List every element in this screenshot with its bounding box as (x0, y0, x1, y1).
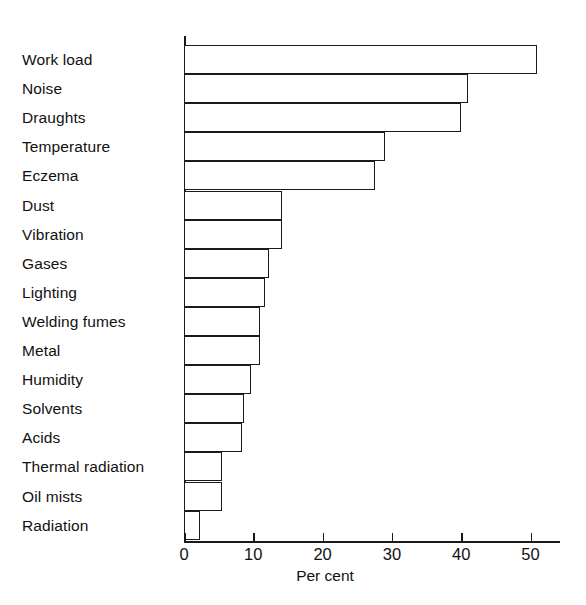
category-label: Acids (22, 430, 178, 446)
x-axis-tick-label: 50 (509, 546, 553, 563)
category-label: Gases (22, 256, 178, 272)
x-axis-tick (461, 533, 463, 541)
bar (184, 103, 461, 132)
category-label: Noise (22, 81, 178, 97)
x-axis-tick (184, 533, 186, 541)
bar (184, 423, 242, 452)
bar (184, 74, 468, 103)
bar (184, 307, 260, 336)
x-axis-line (184, 541, 560, 543)
category-label: Thermal radiation (22, 459, 178, 475)
bar (184, 394, 244, 423)
category-label: Draughts (22, 110, 178, 126)
bar (184, 161, 375, 190)
bar (184, 365, 251, 394)
x-axis-tick-label: 30 (370, 546, 414, 563)
category-label: Radiation (22, 518, 178, 534)
category-label: Vibration (22, 227, 178, 243)
bar (184, 336, 260, 365)
category-label: Welding fumes (22, 314, 178, 330)
x-axis-tick-label: 10 (231, 546, 275, 563)
x-axis-title: Per cent (255, 568, 395, 584)
bar (184, 191, 282, 220)
category-label: Oil mists (22, 489, 178, 505)
category-label: Lighting (22, 285, 178, 301)
bar (184, 452, 222, 481)
x-axis-tick-label: 0 (162, 546, 206, 563)
category-label: Eczema (22, 168, 178, 184)
x-axis-tick (392, 533, 394, 541)
bar (184, 249, 269, 278)
plot-area (184, 36, 564, 541)
bar (184, 45, 537, 74)
bar-chart: Work loadNoiseDraughtsTemperatureEczemaD… (0, 0, 586, 605)
category-label: Humidity (22, 372, 178, 388)
bar (184, 482, 222, 511)
category-label: Temperature (22, 139, 178, 155)
category-label: Metal (22, 343, 178, 359)
category-label: Dust (22, 198, 178, 214)
page-caption (18, 598, 278, 605)
x-axis-tick (531, 533, 533, 541)
bar (184, 278, 265, 307)
category-label: Work load (22, 52, 178, 68)
x-axis-tick (323, 533, 325, 541)
category-label-column: Work loadNoiseDraughtsTemperatureEczemaD… (0, 0, 178, 605)
category-label: Solvents (22, 401, 178, 417)
bar (184, 220, 282, 249)
bar (184, 511, 200, 540)
bar (184, 132, 385, 161)
x-axis-tick-label: 20 (301, 546, 345, 563)
x-axis-tick (253, 533, 255, 541)
x-axis-tick-label: 40 (439, 546, 483, 563)
